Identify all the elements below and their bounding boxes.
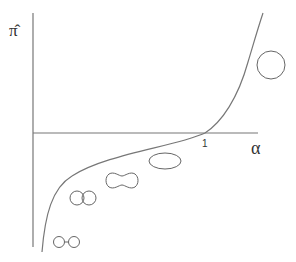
peanut-shape bbox=[106, 173, 138, 188]
two-touching-droplets-shape bbox=[70, 191, 96, 205]
sphere-shape bbox=[257, 51, 285, 79]
two-separated-droplets-shape bbox=[54, 237, 80, 248]
x-axis-label: α bbox=[251, 138, 260, 159]
prolate-ellipse-shape bbox=[149, 153, 181, 169]
diagram-canvas bbox=[0, 0, 296, 262]
x-tick-label: 1 bbox=[202, 138, 208, 149]
y-axis-label: π̂ bbox=[9, 21, 18, 41]
